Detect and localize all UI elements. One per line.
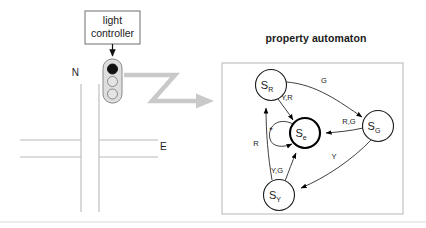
state-SY: SY <box>264 180 295 211</box>
light-controller-box: light controller <box>85 11 140 56</box>
zigzag-arrow <box>124 75 214 109</box>
controller-label-line2: controller <box>91 27 135 39</box>
transition-label-SG-SY: Y <box>331 152 336 161</box>
transition-label-Se-self: * <box>269 125 273 135</box>
zigzag-arrow-head <box>196 94 214 109</box>
intersection-scene: N E <box>20 67 167 212</box>
yellow-lamp <box>108 77 118 87</box>
compass-label-north: N <box>72 67 79 78</box>
traffic-light-property-automaton-figure: N E light controller property automaton <box>0 0 426 228</box>
state-Se: Se <box>290 118 320 148</box>
controller-label-line1: light <box>103 14 122 26</box>
transition-label-SG-Se: R,G <box>342 117 356 126</box>
state-SG: SG <box>363 111 394 142</box>
transition-label-SR-SG: G <box>321 76 327 85</box>
compass-label-east: E <box>160 141 167 152</box>
red-lamp <box>108 64 118 74</box>
automaton-title: property automaton <box>266 32 367 44</box>
green-lamp <box>108 89 118 99</box>
transition-label-SY-SR: R <box>253 139 259 148</box>
traffic-light <box>103 59 122 103</box>
transition-label-SY-Se: Y,G <box>271 166 283 175</box>
zigzag-arrow-path <box>124 75 198 101</box>
state-SR: SR <box>256 70 287 101</box>
